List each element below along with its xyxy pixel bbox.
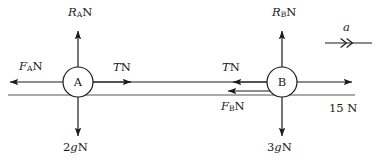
body-b-label: B [272,77,292,89]
tension-a-label: TN [113,62,131,74]
body-a-label: A [68,77,88,89]
acceleration-label: a [343,22,350,34]
tension-b-label: TN [222,62,240,74]
force-diagram-canvas: A B RAN RBN FAN FBN TN TN 2gN 3gN 15 N a [0,0,382,166]
applied-force-label: 15 N [329,103,357,115]
weight-b-label: 3gN [267,142,292,154]
friction-b-label: FBN [221,101,245,113]
diagram-vector-layer [0,0,382,166]
weight-a-label: 2gN [63,142,88,154]
reaction-a-label: RAN [68,7,92,19]
friction-a-label: FAN [19,61,43,73]
reaction-b-label: RBN [272,7,296,19]
